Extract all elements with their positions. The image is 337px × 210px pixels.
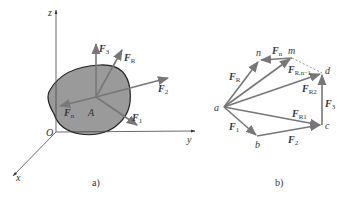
x-axis-label: x xyxy=(15,172,21,183)
label-F2: F2 xyxy=(287,134,299,147)
label-F1: F1 xyxy=(228,121,240,134)
point-n: n xyxy=(256,47,261,58)
point-m: m xyxy=(288,45,295,56)
force-FR-label: FR xyxy=(123,52,136,65)
force-F3-label: F3 xyxy=(98,43,110,56)
point-A-label: A xyxy=(87,107,95,118)
x-axis xyxy=(13,132,56,176)
vector-Fn xyxy=(261,58,292,60)
y-axis-label: y xyxy=(186,134,192,145)
caption-b: b) xyxy=(275,177,283,189)
point-c: c xyxy=(325,120,330,131)
rigid-body xyxy=(48,65,130,135)
diagram-canvas: z y x O F3 FR F2 F1 Fn A a) a b c d m n xyxy=(0,0,337,210)
label-FR2: FR2 xyxy=(301,83,317,96)
z-axis-label: z xyxy=(47,7,52,18)
label-F3: F3 xyxy=(324,98,336,111)
label-FR1: FR1 xyxy=(291,108,307,121)
point-d: d xyxy=(325,65,331,76)
label-Fn: Fn xyxy=(271,45,283,58)
point-a: a xyxy=(214,102,219,113)
vector-FRn xyxy=(224,59,290,107)
figure-b: a b c d m n Fn FR FR,n−1 FR2 F3 FR1 F1 F… xyxy=(214,45,336,189)
label-FR: FR xyxy=(228,71,241,84)
point-b: b xyxy=(255,139,260,150)
origin-label: O xyxy=(46,127,53,138)
vector-FR xyxy=(224,62,258,107)
force-F2-label: F2 xyxy=(157,83,169,96)
figure-a: z y x O F3 FR F2 F1 Fn A a) xyxy=(13,7,195,189)
caption-a: a) xyxy=(92,177,100,189)
